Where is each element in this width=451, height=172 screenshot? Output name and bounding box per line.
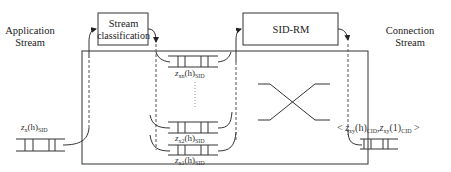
stream-classification-label: Stream classification bbox=[98, 13, 149, 46]
collector-to-sidrm-arrow bbox=[236, 29, 241, 62]
output-queue-label: < zxy(h)CID,zxy(1)CID > bbox=[337, 122, 420, 134]
sid-rm-text: SID-RM bbox=[273, 24, 310, 36]
math-arg: (1) bbox=[389, 122, 401, 133]
input-queue-label: zx(h)SID bbox=[21, 122, 48, 133]
math-close: > bbox=[414, 122, 420, 133]
processing-container bbox=[82, 51, 368, 164]
math-arg: (h) bbox=[355, 122, 367, 133]
sid-rm-label: SID-RM bbox=[243, 13, 339, 46]
input-to-classification-arrow bbox=[89, 29, 96, 58]
queue-1-label: zx1(h)SID bbox=[175, 155, 205, 166]
math-open: < bbox=[337, 122, 343, 133]
math-sub: SID bbox=[195, 138, 205, 144]
math-sub: CID bbox=[401, 128, 411, 134]
math-sub: SID bbox=[38, 127, 48, 133]
application-stream-line1: Application bbox=[4, 25, 56, 37]
connection-stream-line1: Connection bbox=[380, 25, 440, 37]
input-queue-icon bbox=[16, 139, 65, 151]
stream-classification-line2: classification bbox=[97, 30, 150, 42]
queue-2-label: zx2(h)SID bbox=[175, 133, 205, 144]
math-arg: (h) bbox=[185, 155, 196, 165]
connection-stream-label: Connection Stream bbox=[380, 25, 440, 49]
stream-classification-line1: Stream bbox=[109, 18, 139, 30]
math-arg: (h) bbox=[185, 68, 196, 78]
application-stream-line2: Stream bbox=[4, 37, 56, 49]
queue-1-icon bbox=[168, 145, 218, 155]
math-sub: SID bbox=[195, 73, 205, 79]
queue-2-icon bbox=[168, 122, 218, 133]
connection-stream-line2: Stream bbox=[380, 37, 440, 49]
queue-n-icon bbox=[168, 56, 218, 67]
math-sub: CID bbox=[367, 128, 377, 134]
queue-n-label: zxn(h)SID bbox=[175, 68, 205, 79]
math-arg: (h) bbox=[185, 133, 196, 143]
output-queue-icon bbox=[360, 139, 398, 149]
input-flow-arrow bbox=[63, 128, 89, 145]
sidrm-output-arrow bbox=[338, 29, 348, 40]
math-sub: SID bbox=[195, 160, 205, 166]
application-stream-label: Application Stream bbox=[4, 25, 56, 49]
math-arg: (h) bbox=[28, 122, 39, 132]
crossing-icon bbox=[258, 84, 330, 120]
